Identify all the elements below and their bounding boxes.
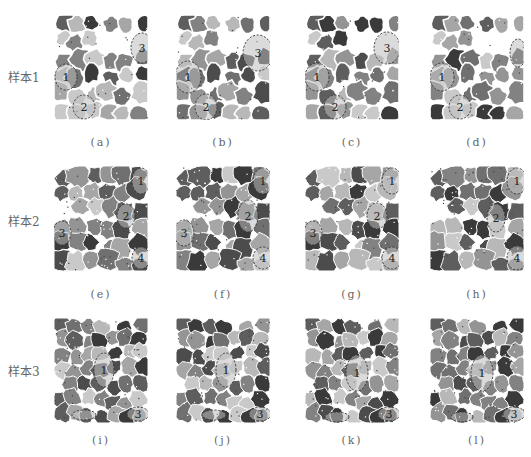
marker-number: 2: [493, 212, 500, 225]
dashed-circle-marker: [325, 412, 349, 422]
dashed-circle-marker: 3: [503, 407, 524, 421]
dashed-circle-marker: [510, 39, 524, 67]
grain-map-image: 13: [54, 318, 148, 423]
dashed-circle-marker: 2: [487, 204, 505, 232]
panel-caption: (i): [71, 434, 131, 447]
dashed-circle-marker: 3: [374, 32, 399, 64]
dashed-circle-marker: 2: [238, 200, 258, 232]
marker-number: 3: [255, 47, 262, 60]
dashed-circle-marker: [72, 410, 96, 420]
dashed-circle-marker: 3: [378, 407, 399, 421]
marker-number: 1: [389, 175, 396, 188]
marker-number: 2: [457, 101, 464, 114]
row-label-sample-2: 样本2: [8, 212, 40, 229]
panel-caption: (a): [71, 136, 131, 149]
marker-number: 2: [374, 210, 381, 223]
dashed-circle-marker: 3: [249, 407, 270, 421]
marker-number: 2: [81, 101, 88, 114]
microstructure-panel: 13: [430, 318, 524, 423]
dashed-circle-marker: 1: [94, 353, 114, 387]
marker-number: 4: [389, 252, 396, 265]
grain-map-image: 1234: [54, 166, 148, 271]
grain-map-image: 123: [305, 15, 399, 120]
marker-number: 1: [314, 71, 321, 84]
panel-caption: (g): [322, 288, 382, 301]
dashed-circle-marker: 3: [54, 221, 71, 245]
marker-number: 4: [260, 252, 267, 265]
panel-caption: (d): [447, 136, 507, 149]
microstructure-panel: 1234: [54, 166, 148, 271]
dashed-circle-marker: 1: [55, 64, 77, 90]
grain-map-image: 123: [54, 15, 148, 120]
panel-caption: (h): [447, 288, 507, 301]
marker-number: 2: [203, 101, 210, 114]
panel-caption: (j): [193, 434, 253, 447]
marker-number: 3: [384, 42, 391, 55]
dashed-circle-marker: 2: [195, 94, 217, 120]
grain-map-image: 123: [176, 15, 270, 120]
marker-number: 1: [354, 367, 361, 380]
microstructure-panel: 12: [430, 15, 524, 120]
marker-number: 1: [101, 364, 108, 377]
row-label-sample-3: 样本3: [8, 362, 40, 379]
grain-map-image: 13: [176, 318, 270, 423]
grain-map-image: 13: [430, 318, 524, 423]
marker-number: 4: [514, 252, 521, 265]
microstructure-panel: 1234: [305, 166, 399, 271]
marker-number: 4: [138, 252, 145, 265]
marker-number: 1: [479, 367, 486, 380]
microstructure-panel: 123: [305, 15, 399, 120]
dashed-circle-marker: 3: [243, 35, 270, 71]
dashed-circle-marker: 3: [305, 221, 322, 245]
dashed-circle-marker: 1: [430, 63, 454, 91]
dashed-circle-marker: [202, 410, 226, 420]
marker-number: 3: [511, 408, 518, 421]
grain-map-image: 13: [305, 318, 399, 423]
dashed-circle-marker: 4: [132, 247, 148, 269]
panel-caption: (e): [71, 288, 131, 301]
marker-number: 1: [260, 175, 267, 188]
dashed-circle-marker: 2: [324, 95, 346, 119]
marker-number: 3: [135, 408, 142, 421]
grain-map-image: 1234: [176, 166, 270, 271]
marker-number: 1: [223, 364, 230, 377]
marker-number: 2: [245, 210, 252, 223]
marker-number: 3: [181, 227, 188, 240]
marker-number: 1: [185, 71, 192, 84]
microstructure-panel: 123: [176, 15, 270, 120]
dashed-circle-marker: [451, 412, 473, 422]
marker-number: 3: [310, 227, 317, 240]
panel-caption: (b): [193, 136, 253, 149]
microstructure-panel: 123: [54, 15, 148, 120]
microstructure-panel: 13: [176, 318, 270, 423]
row-label-sample-1: 样本1: [8, 68, 40, 85]
marker-number: 1: [138, 175, 145, 188]
panel-caption: (k): [322, 434, 382, 447]
dashed-circle-marker: 3: [176, 220, 194, 246]
marker-number: 1: [514, 175, 521, 188]
microstructure-panel: 124: [430, 166, 524, 271]
marker-number: 3: [386, 408, 393, 421]
dashed-circle-marker: 2: [449, 95, 471, 119]
microstructure-panel: 13: [54, 318, 148, 423]
dashed-circle-marker: 2: [73, 95, 95, 119]
marker-number: 3: [139, 42, 146, 55]
marker-number: 2: [123, 210, 130, 223]
marker-number: 2: [332, 101, 339, 114]
dashed-circle-marker: 1: [176, 61, 201, 93]
grain-map-image: 1234: [305, 166, 399, 271]
marker-number: 3: [257, 408, 264, 421]
dashed-circle-marker: 1: [346, 355, 368, 391]
microstructure-panel: 13: [305, 318, 399, 423]
dashed-circle-marker: 1: [471, 355, 493, 391]
dashed-circle-marker: 1: [305, 63, 329, 91]
panel-caption: (l): [447, 434, 507, 447]
dashed-circle-marker: 3: [127, 407, 148, 421]
dashed-circle-marker: 2: [117, 204, 135, 228]
panel-caption: (c): [322, 136, 382, 149]
grain-map-image: 124: [430, 166, 524, 271]
microstructure-panel: 1234: [176, 166, 270, 271]
dashed-circle-marker: 1: [216, 353, 236, 387]
dashed-circle-marker: 2: [367, 203, 387, 229]
grain-map-image: 12: [430, 15, 524, 120]
